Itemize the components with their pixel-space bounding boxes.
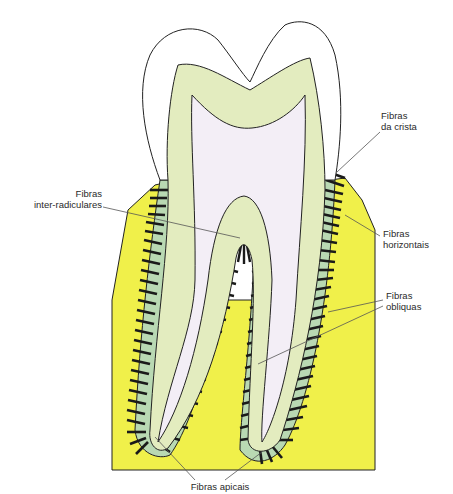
label-line: Fibras [381, 110, 417, 121]
label-line: obliquas [386, 301, 421, 312]
label-line: horizontais [383, 239, 429, 250]
label-line: da crista [381, 121, 417, 132]
label-line: Fibras [386, 290, 421, 301]
label-line: Fibras [383, 228, 429, 239]
label-line: Fibras [20, 188, 102, 199]
label-fibras-horizontais: Fibras horizontais [383, 228, 429, 250]
label-line: Fibras apicais [180, 481, 260, 492]
label-fibras-apicais: Fibras apicais [180, 481, 260, 492]
label-fibras-inter-radiculares: Fibras inter-radiculares [20, 188, 102, 210]
label-line: inter-radiculares [20, 199, 102, 210]
label-fibras-obliquas: Fibras obliquas [386, 290, 421, 312]
label-fibras-da-crista: Fibras da crista [381, 110, 417, 132]
